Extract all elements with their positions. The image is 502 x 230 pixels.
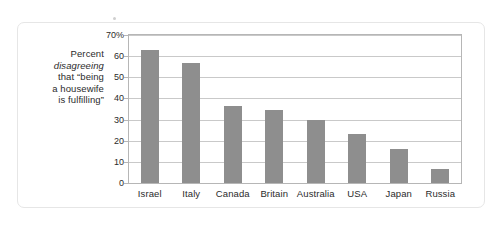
x-axis-tick-label: Britain (260, 188, 288, 199)
x-axis-tick-labels: IsraelItalyCanadaBritainAustraliaUSAJapa… (129, 188, 461, 204)
x-axis-tick-label: Japan (386, 188, 412, 199)
y-axis-tick-label: 50 (68, 72, 124, 82)
y-axis-tick-label: 70% (68, 30, 124, 40)
x-axis-tick-label: Russia (425, 188, 455, 199)
y-axis-tick-label: 0 (68, 178, 124, 188)
y-axis-tick-label: 30 (68, 115, 124, 125)
bar (265, 110, 283, 183)
scan-artifact-dot (113, 17, 116, 20)
y-axis-tick-label: 40 (68, 93, 124, 103)
x-axis-tick-label: Australia (297, 188, 335, 199)
bar (307, 120, 325, 183)
bar (141, 50, 159, 183)
bar (182, 63, 200, 184)
bar (348, 134, 366, 183)
bar (390, 149, 408, 183)
x-axis-tick-label: USA (347, 188, 367, 199)
y-axis-tick-labels: 70%6050403020100 (64, 35, 124, 183)
chart-page: Percentdisagreeingthat “beinga housewife… (0, 0, 502, 230)
x-axis-tick-label: Canada (216, 188, 250, 199)
y-axis-tick-label: 10 (68, 157, 124, 167)
bars-layer (129, 35, 461, 183)
y-axis-tick-label: 60 (68, 51, 124, 61)
x-axis-tick-label: Italy (182, 188, 200, 199)
bar (431, 169, 449, 183)
bar (224, 106, 242, 183)
y-axis-tick-label: 20 (68, 136, 124, 146)
x-axis-tick-label: Israel (138, 188, 162, 199)
